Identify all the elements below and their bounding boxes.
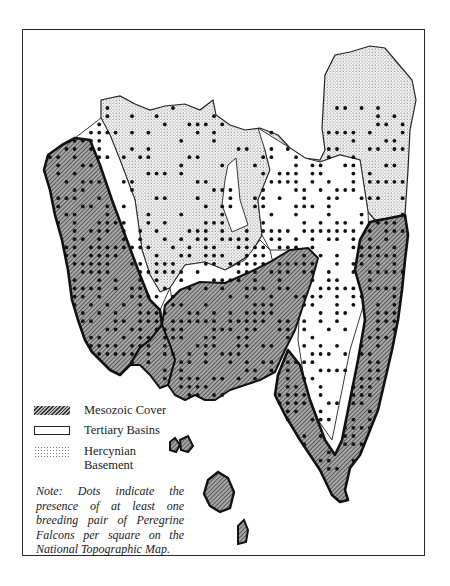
stipple-swatch-icon — [34, 446, 70, 458]
map-note: Note: Dots indicate the presence of at l… — [36, 484, 184, 557]
legend-item-hercynian: Hercynian Basement — [34, 440, 184, 472]
legend-label: Hercynian Basement — [84, 444, 136, 472]
legend-label-line2: Basement — [84, 458, 133, 472]
legend-item-mesozoic: Mesozoic Cover — [34, 400, 184, 420]
legend: Mesozoic Cover Tertiary Basins Hercynian… — [34, 400, 184, 472]
hatch-swatch-icon — [34, 406, 70, 415]
legend-label: Mesozoic Cover — [84, 403, 166, 417]
legend-label: Tertiary Basins — [84, 423, 160, 437]
legend-item-tertiary: Tertiary Basins — [34, 420, 184, 440]
legend-label-line1: Hercynian — [84, 444, 136, 458]
plain-swatch-icon — [34, 426, 70, 435]
